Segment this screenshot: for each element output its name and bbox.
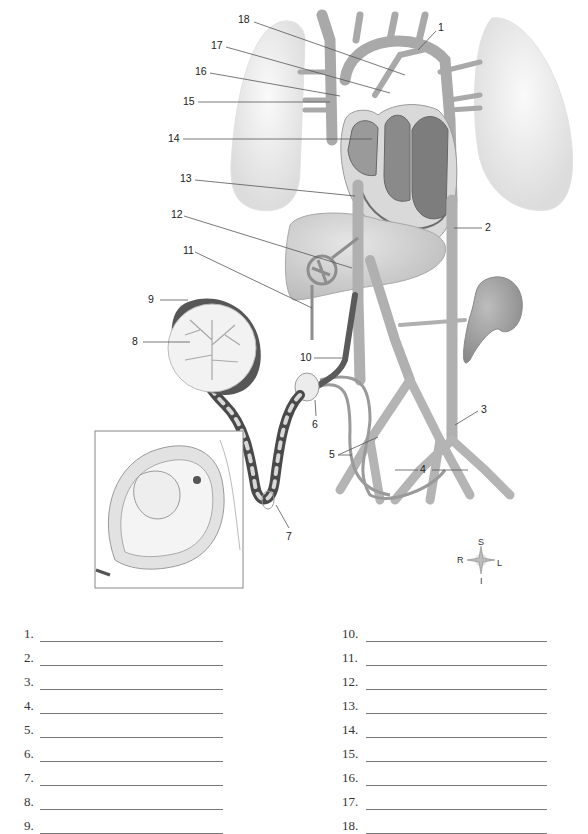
answer-blank-3[interactable]: [40, 675, 223, 690]
answer-list-right: 10. 11. 12. 13. 14. 15. 16. 17. 18.: [342, 618, 588, 834]
label-15: 15: [183, 96, 195, 107]
compass-inferior: I: [480, 576, 483, 586]
answer-row: 4.: [24, 690, 284, 714]
label-2: 2: [485, 222, 491, 233]
compass-left: L: [497, 558, 502, 568]
compass-right: R: [457, 555, 464, 565]
answer-blank-8[interactable]: [40, 795, 223, 810]
label-1: 1: [438, 22, 444, 33]
label-17: 17: [211, 40, 223, 51]
answer-list-left: 1. 2. 3. 4. 5. 6. 7. 8. 9.: [24, 618, 284, 834]
answer-row: 16.: [342, 762, 588, 786]
label-13: 13: [180, 173, 192, 184]
answer-number: 15.: [342, 746, 368, 762]
umbilical-arteries: [320, 377, 445, 498]
label-3: 3: [481, 404, 487, 415]
label-16: 16: [195, 66, 207, 77]
placenta: [168, 299, 261, 395]
answer-number: 11.: [342, 650, 368, 666]
answer-row: 9.: [24, 810, 284, 834]
answer-row: 8.: [24, 786, 284, 810]
answer-number: 12.: [342, 674, 368, 690]
label-18: 18: [238, 14, 250, 25]
answer-blank-14[interactable]: [366, 723, 547, 738]
answer-row: 14.: [342, 714, 588, 738]
compass-superior: S: [478, 537, 484, 547]
label-11: 11: [183, 245, 194, 256]
answer-blank-10[interactable]: [366, 627, 547, 642]
answer-blank-12[interactable]: [366, 675, 547, 690]
answer-blank-4[interactable]: [40, 699, 223, 714]
answer-row: 7.: [24, 762, 284, 786]
answer-blank-6[interactable]: [40, 747, 223, 762]
answer-blank-1[interactable]: [40, 627, 223, 642]
answer-blank-5[interactable]: [40, 723, 223, 738]
answer-row: 1.: [24, 618, 284, 642]
answer-number: 16.: [342, 770, 368, 786]
orientation-compass-icon: [467, 546, 495, 574]
answer-blank-17[interactable]: [366, 795, 547, 810]
answer-row: 2.: [24, 642, 284, 666]
answer-row: 12.: [342, 666, 588, 690]
answer-blank-2[interactable]: [40, 651, 223, 666]
answer-row: 6.: [24, 738, 284, 762]
answer-row: 13.: [342, 690, 588, 714]
right-lung: [231, 21, 305, 211]
label-4: 4: [420, 464, 426, 475]
fetal-circulation-diagram: 1 2 3 4 5 6 7 8 9 10 11 12 13 14 15 16 1…: [0, 0, 588, 610]
answer-blank-18[interactable]: [366, 819, 547, 834]
answer-blank-16[interactable]: [366, 771, 547, 786]
answer-row: 5.: [24, 714, 284, 738]
answer-row: 10.: [342, 618, 588, 642]
left-kidney: [464, 277, 523, 363]
answer-blank-13[interactable]: [366, 699, 547, 714]
answer-blank-9[interactable]: [40, 819, 223, 834]
answer-row: 11.: [342, 642, 588, 666]
label-12: 12: [171, 209, 183, 220]
answer-row: 3.: [24, 666, 284, 690]
uterus-inset: [95, 431, 243, 588]
answer-number: 10.: [342, 626, 368, 642]
label-9: 9: [148, 294, 154, 305]
answer-blank-15[interactable]: [366, 747, 547, 762]
left-lung: [475, 18, 573, 211]
answer-row: 17.: [342, 786, 588, 810]
label-14: 14: [168, 133, 180, 144]
answer-number: 18.: [342, 818, 368, 834]
label-8: 8: [132, 336, 138, 347]
answer-row: 18.: [342, 810, 588, 834]
label-7: 7: [286, 531, 292, 542]
label-10: 10: [300, 352, 312, 363]
answer-number: 13.: [342, 698, 368, 714]
answer-blank-11[interactable]: [366, 651, 547, 666]
answer-number: 14.: [342, 722, 368, 738]
label-5: 5: [329, 449, 335, 460]
answer-blank-7[interactable]: [40, 771, 223, 786]
answer-number: 17.: [342, 794, 368, 810]
label-6: 6: [312, 419, 318, 430]
answer-row: 15.: [342, 738, 588, 762]
